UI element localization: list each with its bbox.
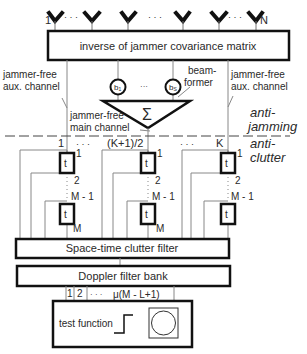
- aux-left-label-1: jammer-free: [2, 69, 57, 80]
- aux-right-label-2: aux. channel: [231, 81, 288, 92]
- doppler-out-last: μ(M - L+1): [113, 289, 160, 300]
- antenna-last-label: N: [260, 14, 268, 26]
- delay-element: [60, 153, 74, 173]
- delay-element: [141, 153, 155, 173]
- doppler-out-1: 1: [67, 288, 73, 299]
- antenna-icon: [212, 13, 226, 21]
- tap-label-m1: M - 1: [71, 191, 94, 202]
- antenna-first-label: 1: [45, 14, 51, 26]
- stap-block-diagram: 1 N · · · · · · · · · inverse of jammer …: [0, 0, 307, 354]
- channel-middle-label: (K+1)/2: [107, 137, 143, 149]
- delay-symbol: t: [64, 209, 67, 220]
- anti-jamming-label-2: jamming: [246, 119, 298, 134]
- antenna-dots: · · ·: [228, 12, 242, 22]
- clutter-filter-label: Space-time clutter filter: [66, 242, 179, 254]
- delay-symbol: t: [145, 158, 148, 169]
- delay-element: [60, 204, 74, 224]
- doppler-out-2: 2: [77, 288, 83, 299]
- test-function-label: test function: [59, 318, 113, 329]
- tap-label-m: M: [156, 223, 164, 234]
- main-channel-label-1: jammer-free: [69, 110, 124, 121]
- delay-symbol: t: [225, 209, 228, 220]
- weight-dots: ···: [140, 82, 148, 91]
- delay-symbol: t: [145, 209, 148, 220]
- channel-last-label: K: [216, 137, 224, 149]
- antenna-icon: [176, 13, 189, 21]
- delay-symbol: t: [225, 158, 228, 169]
- antenna-dots: · · ·: [148, 12, 162, 22]
- antenna-dots: · · ·: [64, 12, 78, 22]
- tap-label-2: 2: [155, 175, 161, 186]
- beamformer-label-2: former: [184, 77, 214, 88]
- sum-symbol: Σ: [142, 106, 152, 123]
- tap-label-m: M: [73, 223, 81, 234]
- anti-jamming-label-1: anti-: [250, 105, 276, 120]
- antenna-icon: [85, 13, 99, 21]
- tap-label-1: 1: [237, 148, 243, 159]
- beamformer-label-1: beam-: [188, 65, 216, 76]
- delay-element: [221, 153, 235, 173]
- tap-label-2: 2: [235, 175, 241, 186]
- channel-first-label: 1: [58, 137, 64, 149]
- main-channel-label-2: main channel: [70, 122, 129, 133]
- delay-element: [141, 204, 155, 224]
- tap-label-1: 1: [157, 148, 163, 159]
- anti-clutter-label-2: clutter: [250, 150, 286, 165]
- tap-label-1: 1: [76, 148, 82, 159]
- aux-right-label-1: jammer-free: [230, 69, 285, 80]
- antenna-icon: [122, 13, 135, 21]
- anti-clutter-label-1: anti-: [250, 136, 276, 151]
- delay-symbol: t: [64, 158, 67, 169]
- channel-dots: · · ·: [180, 139, 194, 149]
- doppler-out-dots: · · ·: [90, 290, 102, 299]
- display-frame: [149, 308, 178, 338]
- matrix-label: inverse of jammer covariance matrix: [80, 40, 257, 52]
- tap-label-m1: M - 1: [231, 191, 254, 202]
- doppler-label: Doppler filter bank: [78, 270, 168, 282]
- aux-left-label-2: aux. channel: [3, 81, 60, 92]
- tap-label-2: 2: [74, 175, 80, 186]
- delay-element: [221, 204, 235, 224]
- tap-label-m1: M - 1: [152, 191, 175, 202]
